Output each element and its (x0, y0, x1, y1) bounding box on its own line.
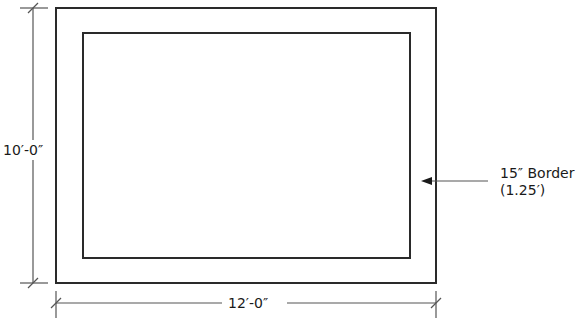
diagram-canvas (0, 0, 585, 327)
width-label: 12′-0″ (228, 295, 268, 311)
outer-rectangle (56, 8, 436, 283)
height-label: 10′-0″ (3, 142, 43, 158)
border-arrow (421, 177, 488, 185)
border-label-line1: 15″ Border (500, 165, 574, 181)
border-label-line2: (1.25′) (500, 182, 545, 198)
inner-rectangle (83, 33, 410, 258)
